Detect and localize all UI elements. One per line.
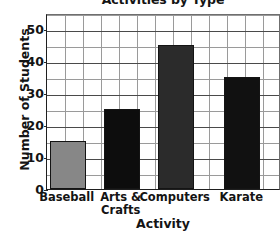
y-tick-label: 10 bbox=[20, 152, 44, 165]
bar bbox=[158, 45, 194, 189]
bar bbox=[224, 77, 260, 189]
bar-series bbox=[47, 15, 279, 189]
bar-chart: Activities by Type Number of Students 01… bbox=[0, 0, 280, 238]
y-tick-label: 40 bbox=[20, 56, 44, 69]
chart-title: Activities by Type bbox=[46, 0, 280, 7]
y-axis-tick-labels: 01020304050 bbox=[14, 14, 44, 190]
x-tick-label: Karate bbox=[205, 191, 277, 204]
x-axis-title: Activity bbox=[46, 216, 280, 231]
y-tick-label: 50 bbox=[20, 24, 44, 37]
x-tick-label: Computers bbox=[139, 191, 211, 204]
y-tick-label: 20 bbox=[20, 120, 44, 133]
plot-area bbox=[46, 14, 280, 190]
bar bbox=[104, 109, 140, 189]
y-tick-label: 30 bbox=[20, 88, 44, 101]
bar bbox=[50, 141, 86, 189]
